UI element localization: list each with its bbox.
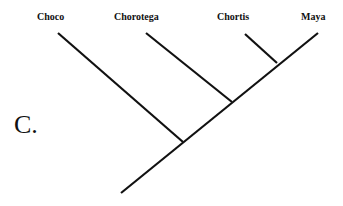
branch-chorotega	[146, 33, 232, 102]
branch-choco	[58, 33, 183, 142]
branch-chortis	[245, 34, 277, 63]
tree-branches	[0, 0, 343, 206]
